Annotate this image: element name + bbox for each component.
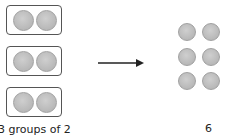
counter-circle <box>13 92 34 113</box>
counter-circle <box>13 10 34 31</box>
counter-circle <box>36 10 57 31</box>
counter-circle <box>202 48 220 66</box>
counter-circle <box>178 23 196 41</box>
group-box-2 <box>6 46 62 76</box>
group-box-1 <box>6 5 62 35</box>
counter-circle <box>13 51 34 72</box>
arrow-right-icon <box>98 59 144 67</box>
counter-circle <box>202 23 220 41</box>
counter-circle <box>202 72 220 90</box>
total-label: 6 <box>205 122 212 135</box>
group-box-3 <box>6 87 62 117</box>
groups-label: 3 groups of 2 <box>0 123 71 135</box>
counter-circle <box>178 72 196 90</box>
counter-circle <box>36 92 57 113</box>
counter-circle <box>36 51 57 72</box>
counter-circle <box>178 48 196 66</box>
